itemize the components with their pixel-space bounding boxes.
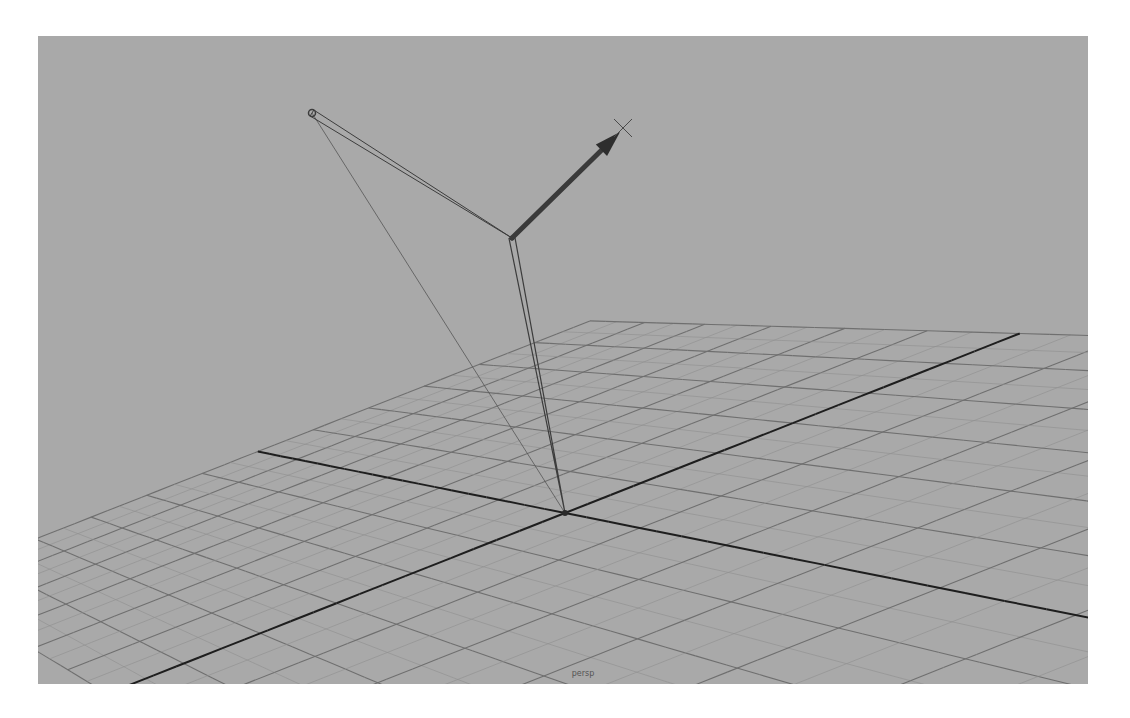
grid-line — [167, 501, 177, 504]
grid-line — [516, 676, 544, 684]
grid-line — [248, 497, 266, 504]
grid-line — [411, 600, 430, 606]
ik-handle-shaft[interactable] — [512, 150, 601, 238]
grid-line — [1067, 451, 1088, 455]
scene-canvas[interactable] — [38, 36, 1088, 684]
grid-line — [717, 453, 741, 456]
grid-line — [611, 389, 630, 391]
grid-line — [259, 568, 280, 576]
grid-line — [804, 336, 824, 344]
grid-line — [309, 499, 323, 502]
grid-line — [56, 615, 76, 623]
grid-line — [457, 367, 474, 374]
grid-line — [338, 520, 358, 528]
grid-line — [366, 423, 379, 425]
grid-line — [389, 459, 404, 462]
grid-line — [364, 535, 380, 539]
grid-line — [649, 444, 671, 447]
grid-line — [507, 347, 524, 354]
grid-line — [329, 493, 348, 501]
grid-line — [1052, 356, 1076, 366]
grid-line — [625, 362, 644, 369]
grid-line — [484, 458, 501, 461]
grid-line — [631, 546, 656, 556]
grid-line — [778, 381, 799, 389]
grid-line — [778, 514, 804, 524]
locator-x-icon[interactable] — [614, 119, 632, 137]
grid-line — [991, 333, 1020, 334]
grid-line — [881, 501, 908, 512]
grid-line — [611, 631, 638, 639]
grid-line — [647, 582, 674, 588]
grid-line — [656, 465, 679, 468]
grid-line — [752, 326, 771, 334]
grid-line — [225, 590, 239, 595]
bone-root-to-middle[interactable] — [509, 237, 565, 513]
grid-line — [38, 583, 46, 590]
3d-viewport[interactable]: persp — [38, 36, 1088, 684]
grid-line — [871, 546, 905, 552]
grid-line — [566, 335, 583, 342]
grid-line — [387, 477, 402, 480]
grid-line — [861, 387, 884, 396]
grid-line — [199, 648, 222, 657]
grid-line — [976, 487, 1011, 492]
grid-line — [441, 373, 458, 380]
grid-line — [74, 639, 85, 645]
grid-line — [305, 461, 318, 464]
grid-line — [216, 568, 236, 576]
grid-line — [195, 561, 215, 569]
grid-line — [606, 556, 631, 566]
grid-line — [260, 633, 276, 640]
grid-line — [752, 525, 778, 535]
grid-line — [213, 678, 228, 684]
grid-line — [283, 493, 296, 496]
grid-line — [762, 609, 794, 617]
grid-line — [648, 506, 672, 510]
grid-line — [480, 606, 505, 616]
bone-middle-to-end[interactable] — [310, 110, 512, 238]
grid-line — [703, 376, 723, 384]
grid-line — [716, 366, 737, 367]
grid-line — [1035, 640, 1080, 650]
root-joint-icon[interactable] — [562, 510, 568, 516]
grid-line — [688, 350, 708, 351]
grid-line — [712, 398, 734, 400]
grid-line — [818, 384, 840, 393]
grid-line — [197, 593, 218, 601]
grid-line — [781, 362, 802, 370]
grid-line — [301, 551, 322, 559]
grid-line — [965, 593, 1005, 601]
grid-line — [276, 473, 288, 476]
grid-line — [609, 522, 632, 527]
grid-line — [579, 394, 598, 402]
grid-line — [593, 336, 610, 343]
grid-line — [858, 432, 882, 442]
grid-line — [610, 334, 627, 335]
grid-line — [375, 588, 393, 594]
grid-line — [396, 402, 413, 409]
grid-line — [99, 566, 109, 570]
grid-line — [81, 576, 100, 583]
grid-line — [329, 549, 345, 554]
grid-line — [344, 469, 358, 472]
grid-line — [325, 572, 341, 577]
grid-line — [452, 459, 472, 467]
grid-line — [130, 676, 153, 684]
grid-line — [514, 379, 532, 386]
grid-line — [690, 396, 711, 398]
grid-line — [589, 373, 607, 374]
grid-line — [451, 471, 468, 474]
grid-line — [934, 453, 960, 463]
grid-line — [314, 481, 327, 484]
grid-line — [264, 478, 282, 485]
grid-line — [759, 675, 793, 684]
grid-line — [155, 576, 175, 584]
grid-line — [675, 356, 694, 364]
grid-line — [540, 334, 557, 341]
grid-line — [477, 500, 498, 508]
grid-line — [66, 604, 76, 609]
grid-line — [262, 585, 284, 594]
grid-line — [807, 477, 832, 487]
grid-line — [973, 601, 1005, 614]
